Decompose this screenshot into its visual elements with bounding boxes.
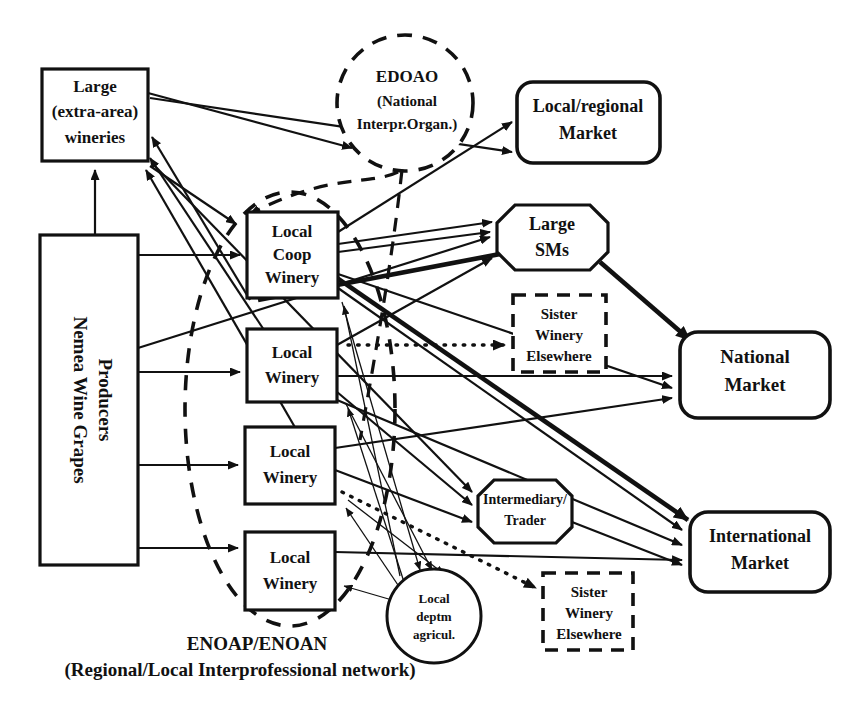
- edge-coop-to-large-wineries: [152, 137, 250, 300]
- enoap-enoan-caption: ENOAP/ENOAN (Regional/Local Interprofess…: [64, 633, 415, 681]
- node-label-intermediary-line1: Intermediary/: [483, 492, 568, 507]
- node-label-large-wineries-line3: wineries: [65, 128, 126, 147]
- node-label-winery2-line1: Local: [270, 442, 311, 461]
- edge-coop-to-national-market: [338, 274, 672, 388]
- diagram-svg: Large (extra-area) wineries Nemea Wine G…: [0, 0, 865, 711]
- node-label-large-sms-line1: Large: [529, 214, 575, 234]
- node-label-international-market-line1: International: [709, 526, 811, 546]
- node-local-coop-winery[interactable]: Local Coop Winery: [247, 212, 338, 298]
- caption-line1: ENOAP/ENOAN: [187, 633, 328, 654]
- node-local-winery-1[interactable]: Local Winery: [247, 329, 337, 402]
- node-label-winery3-line2: Winery: [263, 574, 318, 593]
- node-sister-winery-elsewhere-top[interactable]: Sister Winery Elsewhere: [513, 295, 606, 372]
- node-label-sister-top-line1: Sister: [541, 306, 578, 322]
- node-label-large-wineries-line2: (extra-area): [52, 102, 139, 121]
- node-label-edoao-line2: (National: [377, 93, 437, 110]
- node-label-local-market-line2: Market: [559, 123, 617, 143]
- node-label-sister-top-line2: Winery: [535, 327, 584, 343]
- node-label-winery2-line2: Winery: [263, 468, 318, 487]
- node-edoao[interactable]: EDOAO (National Interpr.Organ.): [337, 35, 473, 171]
- node-label-winery1-line2: Winery: [265, 368, 320, 387]
- node-label-sister-bottom-line2: Winery: [565, 605, 614, 621]
- edge-deptm-to-winery3: [344, 586, 392, 600]
- node-label-local-market-line1: Local/regional: [533, 96, 644, 116]
- node-local-regional-market[interactable]: Local/regional Market: [517, 82, 660, 163]
- node-label-winery1-line1: Local: [272, 343, 313, 362]
- node-label-coop-line3: Winery: [265, 268, 320, 287]
- node-large-sms[interactable]: Large SMs: [497, 205, 608, 270]
- node-label-international-market-line2: Market: [731, 553, 789, 573]
- node-label-edoao-line1: EDOAO: [376, 67, 438, 86]
- node-intermediary-trader[interactable]: Intermediary/ Trader: [478, 480, 572, 543]
- node-label-deptm-line2: deptm: [416, 609, 452, 624]
- edge-winery1-to-deptm: [346, 404, 432, 570]
- node-label-sister-bottom-line3: Elsewhere: [556, 626, 622, 642]
- node-label-sister-bottom-line1: Sister: [571, 584, 608, 600]
- node-label-producers-line2: Producers: [95, 358, 116, 441]
- node-label-large-wineries-line1: Large: [73, 77, 117, 96]
- node-national-market[interactable]: National Market: [680, 332, 830, 418]
- node-label-deptm-line1: Local: [418, 591, 449, 606]
- node-local-deptm-agricul[interactable]: Local deptm agricul.: [387, 569, 481, 663]
- node-label-national-market-line1: National: [720, 346, 790, 367]
- node-nemea-wine-grapes-producers[interactable]: Nemea Wine Grapes Producers: [40, 235, 138, 565]
- node-label-coop-line1: Local: [272, 222, 313, 241]
- edge-large-wineries-to-coop: [150, 166, 236, 224]
- node-large-extra-area-wineries[interactable]: Large (extra-area) wineries: [42, 69, 148, 161]
- node-label-edoao-line3: Interpr.Organ.): [357, 116, 457, 133]
- diagram-canvas: Large (extra-area) wineries Nemea Wine G…: [0, 0, 865, 711]
- node-label-coop-line2: Coop: [273, 245, 312, 264]
- edge-winery2-to-deptm: [348, 500, 444, 574]
- caption-line2: (Regional/Local Interprofessional networ…: [64, 659, 415, 681]
- node-local-winery-2[interactable]: Local Winery: [245, 427, 335, 504]
- node-label-producers-line1: Nemea Wine Grapes: [70, 316, 91, 483]
- edge-coop-to-large-sms-alt: [338, 222, 492, 244]
- node-label-sister-top-line3: Elsewhere: [526, 348, 592, 364]
- node-label-national-market-line2: Market: [724, 374, 786, 395]
- node-label-intermediary-line2: Trader: [504, 513, 546, 528]
- node-label-large-sms-line2: SMs: [535, 240, 569, 260]
- edge-deptm-to-winery1: [348, 408, 404, 582]
- node-label-winery3-line1: Local: [270, 548, 311, 567]
- edge-large-sms-to-national-market: [600, 262, 690, 340]
- node-international-market[interactable]: International Market: [690, 512, 830, 592]
- edge-coop-to-deptm: [342, 302, 420, 570]
- edge-coop-to-large-sms: [338, 232, 490, 252]
- node-label-deptm-line3: agricul.: [413, 627, 455, 642]
- node-sister-winery-elsewhere-bottom[interactable]: Sister Winery Elsewhere: [543, 573, 633, 650]
- edge-winery3-to-international-market: [335, 552, 682, 560]
- node-local-winery-3[interactable]: Local Winery: [245, 532, 335, 610]
